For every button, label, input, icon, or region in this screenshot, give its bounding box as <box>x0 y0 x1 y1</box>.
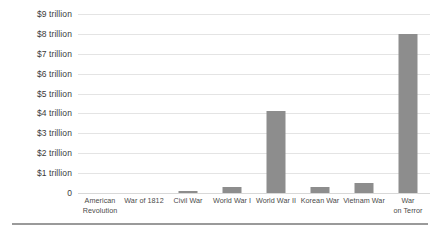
bar <box>311 187 330 193</box>
y-axis-tick-label: $1 trillion <box>37 168 72 178</box>
x-axis-tick-label-line: World War II <box>254 196 298 206</box>
plot-area <box>78 14 430 193</box>
x-axis-tick-label-line: Revolution <box>78 206 122 216</box>
bar-slot <box>298 14 342 193</box>
x-axis-tick-label: Civil War <box>166 196 210 206</box>
x-axis-tick-label-line: War <box>386 196 430 206</box>
x-axis-tick-label-line: American <box>78 196 122 206</box>
bar-slot <box>254 14 298 193</box>
gridline <box>78 193 430 194</box>
bar-slot <box>386 14 430 193</box>
bar-slot <box>166 14 210 193</box>
x-axis-tick-label-line: War of 1812 <box>122 196 166 206</box>
bar-slot <box>342 14 386 193</box>
x-axis-tick-label: World War I <box>210 196 254 206</box>
bar-chart: $9 trillion$8 trillion$7 trillion$6 tril… <box>0 0 443 235</box>
x-axis-tick-label: Waron Terror <box>386 196 430 215</box>
x-axis-tick-label: Vietnam War <box>342 196 386 206</box>
y-axis-tick-label: $4 trillion <box>37 108 72 118</box>
bar <box>179 191 198 193</box>
bar <box>267 111 286 193</box>
y-axis-tick-label: $6 trillion <box>37 69 72 79</box>
x-axis-tick-label-line: Civil War <box>166 196 210 206</box>
x-axis-tick-label: World War II <box>254 196 298 206</box>
bar-series <box>78 14 430 193</box>
bar <box>399 34 418 193</box>
x-axis-tick-label-line: Korean War <box>298 196 342 206</box>
y-axis-tick-label: $3 trillion <box>37 128 72 138</box>
x-axis-tick-label-line: World War I <box>210 196 254 206</box>
y-axis-tick-label: $2 trillion <box>37 148 72 158</box>
y-axis-labels: $9 trillion$8 trillion$7 trillion$6 tril… <box>0 14 72 193</box>
y-axis-tick-label: $5 trillion <box>37 89 72 99</box>
x-axis-tick-label-line: Vietnam War <box>342 196 386 206</box>
bar-slot <box>210 14 254 193</box>
x-axis-tick-label: AmericanRevolution <box>78 196 122 215</box>
y-axis-tick-label: $9 trillion <box>37 9 72 19</box>
bar <box>355 183 374 193</box>
footer-divider <box>12 223 428 225</box>
y-axis-tick-label: $8 trillion <box>37 29 72 39</box>
x-axis-tick-label-line: on Terror <box>386 206 430 216</box>
bar-slot <box>122 14 166 193</box>
bar-slot <box>78 14 122 193</box>
bar <box>223 187 242 193</box>
y-axis-tick-label: $7 trillion <box>37 49 72 59</box>
x-axis-tick-label: Korean War <box>298 196 342 206</box>
x-axis-tick-label: War of 1812 <box>122 196 166 206</box>
x-axis-labels: AmericanRevolutionWar of 1812Civil WarWo… <box>78 196 430 222</box>
y-axis-tick-label: 0 <box>67 188 72 198</box>
